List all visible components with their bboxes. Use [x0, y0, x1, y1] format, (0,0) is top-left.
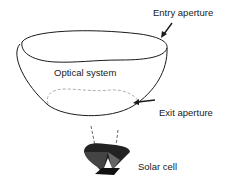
optical-system-diagram — [0, 0, 234, 187]
exit-aperture-hidden-edge — [47, 89, 140, 104]
solar-cell-icon — [84, 143, 130, 175]
optical-system-label: Optical system — [54, 67, 116, 78]
entry-arrow-icon — [161, 23, 172, 38]
beam-line-right — [116, 130, 118, 146]
optical-system-body — [17, 44, 167, 116]
entry-aperture-label: Entry aperture — [153, 7, 213, 18]
entry-aperture-rim — [22, 31, 167, 62]
exit-arrow-icon — [133, 99, 155, 105]
solar-cell-label: Solar cell — [138, 161, 177, 172]
beam-line-left — [91, 126, 95, 146]
exit-aperture-label: Exit aperture — [159, 107, 213, 118]
